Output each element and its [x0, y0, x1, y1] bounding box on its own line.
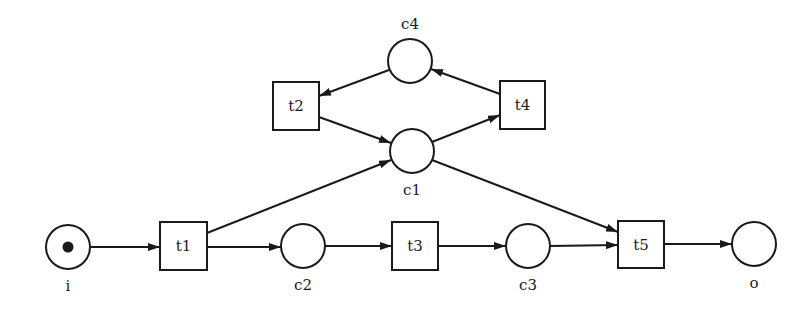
- transition-label: t3: [407, 237, 423, 255]
- arc-c1-to-t5: [432, 160, 618, 232]
- place-label: c1: [403, 181, 421, 199]
- transition-label: t2: [288, 97, 304, 115]
- transition-t4: t4: [500, 81, 545, 129]
- place-c1: c1: [390, 129, 434, 199]
- arc-c1-to-t4: [432, 115, 500, 142]
- petri-net-diagram: ic2c3oc1c4 t1t2t3t4t5: [0, 0, 811, 311]
- transition-label: t1: [176, 237, 192, 255]
- place-label: c4: [401, 15, 419, 33]
- transitions-layer: t1t2t3t4t5: [160, 81, 664, 270]
- place-circle: [388, 39, 432, 83]
- transition-t3: t3: [392, 222, 438, 270]
- place-circle: [506, 224, 550, 268]
- place-label: c2: [294, 276, 312, 294]
- token-dot-icon: [63, 242, 74, 253]
- place-label: o: [749, 274, 758, 292]
- arc-t1-to-c1: [207, 160, 391, 233]
- transition-t5: t5: [618, 221, 664, 268]
- place-c4: c4: [388, 15, 432, 83]
- arc-t2-to-c1: [319, 117, 391, 143]
- transition-label: t4: [515, 96, 531, 114]
- arc-c4-to-t2: [319, 70, 389, 96]
- place-o: o: [732, 222, 776, 292]
- place-label: i: [66, 277, 71, 295]
- arc-t4-to-c4: [431, 69, 500, 94]
- transition-label: t5: [633, 236, 649, 254]
- arc-c3-to-t5: [550, 245, 618, 246]
- place-circle: [390, 129, 434, 173]
- place-label: c3: [519, 276, 537, 294]
- place-i: i: [46, 225, 90, 295]
- place-c2: c2: [281, 224, 325, 294]
- place-c3: c3: [506, 224, 550, 294]
- place-circle: [281, 224, 325, 268]
- transition-t1: t1: [160, 222, 207, 270]
- transition-t2: t2: [273, 82, 319, 130]
- place-circle: [732, 222, 776, 266]
